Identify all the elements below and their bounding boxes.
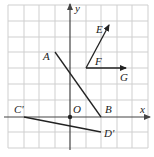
- segment-c-prime-d-prime: [24, 117, 101, 132]
- label-g: G: [120, 71, 128, 83]
- label-o: O: [73, 103, 81, 115]
- label-x: x: [139, 103, 145, 115]
- coordinate-diagram: y x O A B E F G C' D': [0, 0, 154, 157]
- label-f: F: [94, 55, 102, 67]
- label-b: B: [105, 103, 112, 115]
- label-a: A: [42, 50, 50, 62]
- label-c-prime: C': [14, 103, 24, 115]
- origin-point: [68, 115, 72, 119]
- label-d-prime: D': [103, 127, 115, 139]
- label-y: y: [74, 2, 80, 14]
- label-e: E: [95, 23, 103, 35]
